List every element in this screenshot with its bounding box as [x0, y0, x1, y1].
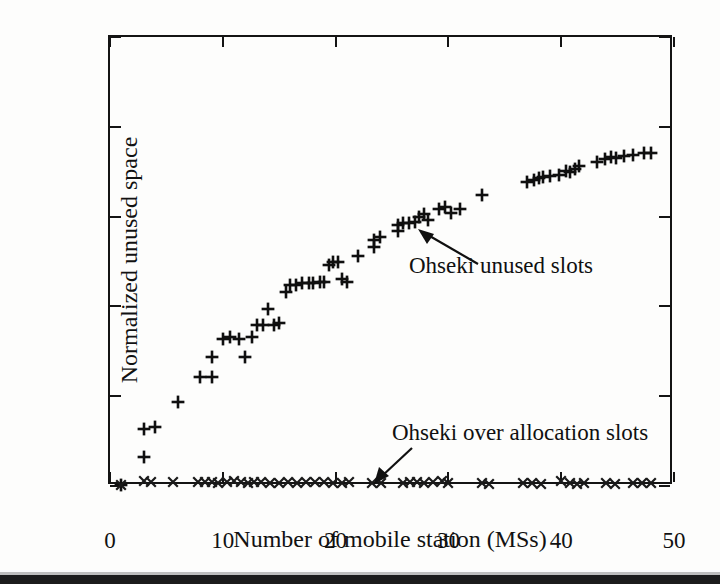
data-point-unused-slots	[633, 155, 634, 156]
data-point-over-allocation-slots	[615, 484, 616, 485]
data-point-over-allocation-slots	[448, 483, 449, 484]
data-point-unused-slots	[144, 457, 145, 458]
annotation-arrow-ohseki-unused-slots	[416, 228, 486, 268]
x-axis-tick-top	[673, 37, 675, 47]
x-axis-tick-label: 30	[408, 529, 488, 552]
data-point-unused-slots	[460, 209, 461, 210]
data-point-unused-slots	[268, 309, 269, 310]
figure-scatter-plot: Normalized unused space Number of mobile…	[0, 0, 720, 584]
data-point-unused-slots	[245, 357, 246, 358]
data-point-unused-slots	[374, 247, 375, 248]
x-axis-tick-label: 50	[634, 529, 714, 552]
data-point-unused-slots	[144, 429, 145, 430]
x-axis-tick-label: 40	[521, 529, 601, 552]
data-point-unused-slots	[428, 220, 429, 221]
data-point-unused-slots	[155, 427, 156, 428]
x-axis-tick-label: 10	[183, 529, 263, 552]
data-point-unused-slots	[200, 377, 201, 378]
data-point-unused-slots	[212, 357, 213, 358]
data-point-over-allocation-slots	[121, 485, 122, 486]
data-point-unused-slots	[482, 195, 483, 196]
data-point-unused-slots	[338, 262, 339, 263]
y-axis-title-container: Normalized unused space	[10, 35, 50, 484]
annotation-label-ohseki-over-allocation-slots: Ohseki over allocation slots	[392, 420, 648, 446]
x-axis-tick-label: 20	[296, 529, 376, 552]
data-point-over-allocation-slots	[349, 482, 350, 483]
data-point-unused-slots	[358, 256, 359, 257]
data-point-over-allocation-slots	[151, 482, 152, 483]
data-point-unused-slots	[263, 325, 264, 326]
data-point-unused-slots	[380, 237, 381, 238]
data-point-unused-slots	[178, 402, 179, 403]
data-point-over-allocation-slots	[173, 482, 174, 483]
data-point-over-allocation-slots	[489, 484, 490, 485]
page-scan-edge	[0, 575, 720, 584]
data-point-unused-slots	[252, 337, 253, 338]
y-axis-tick-right	[659, 485, 670, 487]
data-point-unused-slots	[324, 282, 325, 283]
data-point-unused-slots	[347, 282, 348, 283]
data-point-over-allocation-slots	[541, 484, 542, 485]
annotation-arrow-ohseki-over-allocation-slots	[372, 446, 422, 486]
data-point-unused-slots	[651, 153, 652, 154]
x-axis-tick-label: 0	[70, 529, 150, 552]
data-point-over-allocation-slots	[651, 483, 652, 484]
data-point-unused-slots	[239, 339, 240, 340]
data-point-unused-slots	[579, 166, 580, 167]
x-axis-tick	[673, 472, 675, 482]
data-point-unused-slots	[279, 323, 280, 324]
data-point-over-allocation-slots	[584, 483, 585, 484]
data-point-unused-slots	[212, 377, 213, 378]
